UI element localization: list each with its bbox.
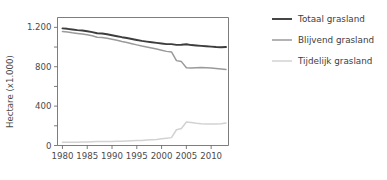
x-tick-label: 1985 — [76, 151, 98, 161]
legend-item[interactable]: Totaal grasland — [272, 14, 365, 24]
x-tick-label: 2000 — [151, 151, 173, 161]
legend-item[interactable]: Tijdelijk grasland — [272, 56, 372, 66]
series-line-tijdelijk-grasland — [62, 122, 226, 142]
y-tick-label: 0 — [46, 141, 51, 151]
plot-frame-path — [58, 18, 229, 146]
y-tick-label: 1.200 — [27, 22, 52, 32]
series-line-totaal-grasland — [62, 28, 226, 47]
plot-frame — [58, 18, 229, 146]
chart-legend: Totaal graslandBlijvend graslandTijdelij… — [272, 14, 374, 66]
x-tick-label: 1980 — [52, 151, 74, 161]
legend-item-label: Tijdelijk grasland — [297, 56, 372, 66]
legend-item-label: Totaal grasland — [297, 14, 365, 24]
legend-item[interactable]: Blijvend grasland — [272, 35, 374, 45]
y-tick-label: 400 — [35, 101, 51, 111]
x-tick-label: 1995 — [126, 151, 148, 161]
series-line-blijvend-grasland — [62, 31, 226, 69]
y-tick-label: 800 — [35, 62, 51, 72]
y-axis-title: Hectare (x1.000) — [5, 55, 15, 128]
y-axis: 04008001.200 — [27, 22, 58, 150]
line-chart: 04008001.200 198019851990199520002005201… — [0, 0, 387, 180]
x-tick-label: 2010 — [200, 151, 222, 161]
data-series-group — [62, 28, 226, 142]
chart-figure: 04008001.200 198019851990199520002005201… — [0, 0, 387, 180]
x-tick-label: 1990 — [101, 151, 123, 161]
legend-item-label: Blijvend grasland — [298, 35, 374, 45]
x-axis: 1980198519901995200020052010 — [52, 146, 223, 162]
x-tick-label: 2005 — [175, 151, 197, 161]
